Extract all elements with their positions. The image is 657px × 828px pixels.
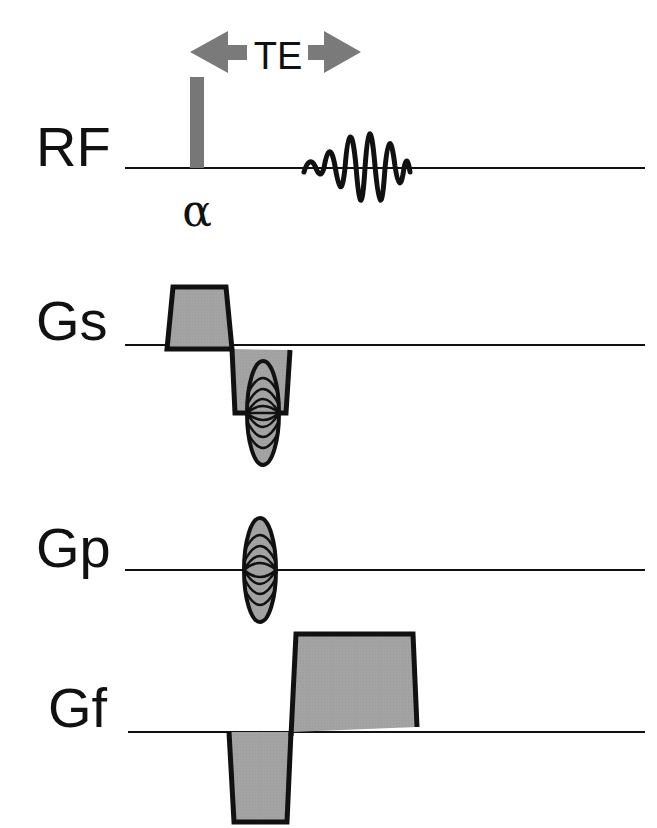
slice-phase-encode-table <box>247 361 279 465</box>
channel-label-gf: Gf <box>48 676 108 739</box>
channel-gp: Gp <box>36 516 645 622</box>
channel-rf: RF α <box>36 77 645 236</box>
rf-excitation-pulse <box>190 77 204 168</box>
readout-lobe <box>291 634 417 732</box>
arrow-left-icon <box>190 31 247 73</box>
channel-gf: Gf <box>48 634 645 822</box>
readout-dephase-lobe <box>229 732 291 822</box>
te-arrow: TE <box>190 31 361 77</box>
te-label: TE <box>254 35 303 77</box>
phase-encode-table <box>244 518 276 622</box>
channel-gs: Gs <box>36 287 645 465</box>
arrow-right-icon <box>308 31 361 73</box>
channel-label-gp: Gp <box>36 516 111 579</box>
pulse-sequence-diagram: TE RF α Gs Gp Gf <box>0 0 657 828</box>
channel-label-rf: RF <box>36 115 111 178</box>
slice-select-lobe <box>167 287 232 349</box>
channel-label-gs: Gs <box>36 289 108 352</box>
flip-angle-label: α <box>182 185 212 236</box>
